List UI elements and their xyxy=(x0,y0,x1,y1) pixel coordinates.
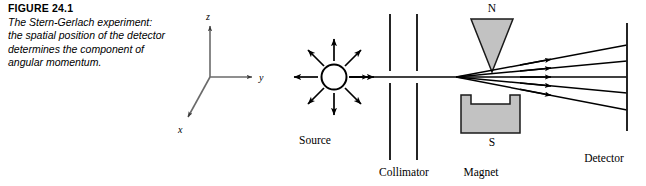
z-axis-label: z xyxy=(205,11,210,22)
coordinate-axes: z y x xyxy=(177,11,264,135)
south-pole-block xyxy=(461,95,520,133)
magnet-label: Magnet xyxy=(463,166,499,179)
detector-label: Detector xyxy=(584,152,624,164)
x-axis-line xyxy=(188,77,210,117)
north-pole-wedge xyxy=(471,19,513,72)
x-axis-label: x xyxy=(177,124,183,135)
north-pole-label: N xyxy=(488,2,497,14)
magnet: N S Magnet xyxy=(461,2,520,179)
figure-stern-gerlach: FIGURE 24.1 The Stern-Gerlach experiment… xyxy=(0,0,646,186)
collimator-label: Collimator xyxy=(379,166,429,178)
source-label: Source xyxy=(299,134,331,146)
y-axis-label: y xyxy=(258,72,264,83)
stern-gerlach-diagram: z y x Source xyxy=(0,0,646,186)
collimator xyxy=(390,14,417,160)
deflected-beam-arrowheads xyxy=(520,59,551,95)
source-circle xyxy=(322,65,347,90)
source-group: Source xyxy=(294,39,374,146)
south-pole-label: S xyxy=(489,136,495,148)
